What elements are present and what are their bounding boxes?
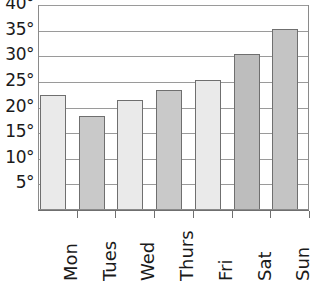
x-tick: [309, 211, 310, 218]
bar-mon: [40, 95, 66, 209]
x-tick-label-tues: Tues: [100, 220, 120, 281]
x-tick: [232, 211, 233, 218]
x-tick-label-thurs: Thurs: [177, 220, 197, 281]
plot-area: [38, 5, 309, 210]
bar-sat: [234, 54, 260, 209]
x-tick: [270, 211, 271, 218]
y-tick-label: 15°: [5, 123, 34, 140]
y-tick-label: 5°: [16, 174, 34, 191]
bar-wed: [117, 100, 143, 209]
bar-tues: [79, 116, 105, 209]
y-tick-label: 10°: [5, 149, 34, 166]
x-axis: MonTuesWedThursFriSatSun: [38, 220, 309, 281]
bar-thurs: [156, 90, 182, 209]
x-tick-label-mon: Mon: [61, 220, 81, 281]
y-tick-label: 20°: [5, 98, 34, 115]
bars-group: [39, 6, 308, 209]
x-tick-label-sat: Sat: [255, 220, 275, 281]
x-tick: [77, 211, 78, 218]
bar-sun: [272, 29, 298, 209]
x-tick-label-fri: Fri: [216, 220, 236, 281]
y-tick-label: 25°: [5, 72, 34, 89]
x-tick: [193, 211, 194, 218]
y-axis: 5°10°15°20°25°30°35°40°: [0, 0, 36, 215]
x-axis-ticks: [38, 211, 309, 218]
x-tick-label-sun: Sun: [293, 220, 313, 281]
y-tick-label: 35°: [5, 21, 34, 38]
x-tick-label-wed: Wed: [138, 220, 158, 281]
x-tick: [115, 211, 116, 218]
y-tick-label: 30°: [5, 46, 34, 63]
bar-fri: [195, 80, 221, 209]
x-tick: [154, 211, 155, 218]
bar-chart: 5°10°15°20°25°30°35°40° MonTuesWedThursF…: [0, 0, 314, 281]
y-tick-label: 40°: [5, 0, 34, 12]
